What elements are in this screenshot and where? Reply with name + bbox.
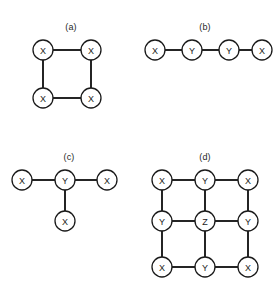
graph-node: Y <box>238 211 258 231</box>
graph-figure-root: XXXXXYYXXYXXXYXYZYXYX (a)(b)(c)(d) <box>0 0 277 291</box>
graph-node: Y <box>219 40 239 60</box>
node-label: X <box>159 176 165 186</box>
node-label: X <box>152 46 158 56</box>
graph-node: Y <box>152 211 172 231</box>
node-label: X <box>104 176 110 186</box>
graph-node: Y <box>195 170 215 190</box>
panel-b-label: (b) <box>185 22 225 33</box>
graph-node: X <box>145 40 165 60</box>
graph-canvas: XXXXXYYXXYXXXYXYZYXYX <box>0 0 277 291</box>
graph-node: Y <box>182 40 202 60</box>
panel-c-label: (c) <box>49 152 89 163</box>
graph-node: X <box>81 88 101 108</box>
node-label: Z <box>202 217 208 227</box>
node-label: X <box>245 263 251 273</box>
node-label: X <box>62 217 68 227</box>
graph-node: X <box>252 40 272 60</box>
graph-node: X <box>33 40 53 60</box>
node-label: X <box>88 94 94 104</box>
node-label: Y <box>189 46 195 56</box>
panel-d-label: (d) <box>185 152 225 163</box>
graph-node: X <box>81 40 101 60</box>
node-label: Y <box>245 217 251 227</box>
graph-node: Z <box>195 211 215 231</box>
panel-b: XYYX <box>145 40 272 60</box>
graph-node: Y <box>195 257 215 277</box>
node-label: X <box>259 46 265 56</box>
node-label: Y <box>159 217 165 227</box>
graph-node: X <box>12 170 32 190</box>
node-label: X <box>40 46 46 56</box>
graph-node: X <box>152 170 172 190</box>
node-label: Y <box>202 263 208 273</box>
panel-d: XYXYZYXYX <box>152 170 258 277</box>
node-label: X <box>159 263 165 273</box>
node-label: X <box>40 94 46 104</box>
node-label: Y <box>202 176 208 186</box>
graph-node: X <box>97 170 117 190</box>
graph-node: X <box>152 257 172 277</box>
graph-node: X <box>33 88 53 108</box>
graph-node: X <box>55 211 75 231</box>
graph-node: Y <box>55 170 75 190</box>
node-label: X <box>88 46 94 56</box>
panel-c: XYXX <box>12 170 117 231</box>
graph-node: X <box>238 257 258 277</box>
node-label: Y <box>62 176 68 186</box>
node-label: X <box>245 176 251 186</box>
panel-a: XXXX <box>33 40 101 108</box>
node-label: Y <box>226 46 232 56</box>
node-label: X <box>19 176 25 186</box>
panel-a-label: (a) <box>51 22 91 33</box>
graph-node: X <box>238 170 258 190</box>
